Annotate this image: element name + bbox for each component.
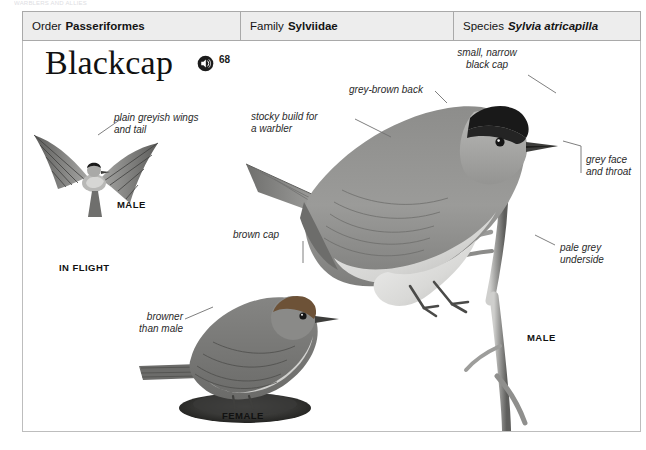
annotation-underside: pale grey underside [560,242,604,266]
audio-track-number: 68 [219,54,230,65]
leader-back [435,91,447,103]
taxonomy-header: Order Passeriformes Family Sylviidae Spe… [22,11,641,41]
family-value: Sylviidae [288,20,338,32]
species-label: Species [463,20,504,32]
page-title: Blackcap [45,46,173,80]
annotation-wings-tail: plain greyish wings and tail [114,112,199,136]
running-head: WARBLERS AND ALLIES [14,0,164,7]
annotation-face-throat: grey face and throat [586,154,631,178]
field-guide-page: WARBLERS AND ALLIES Order Passeriformes … [0,0,646,450]
annotation-brown-cap: brown cap [215,229,297,241]
speaker-icon[interactable] [197,55,214,72]
leader-underside [535,235,555,245]
annotation-browner: browner than male [101,311,183,335]
leader-lines [23,41,641,432]
caption-perched-male: MALE [527,332,556,343]
leader-stocky-build [355,119,391,137]
order-value: Passeriformes [65,20,144,32]
taxonomy-cell-family: Family Sylviidae [241,12,454,40]
species-value: Sylvia atricapilla [508,20,598,32]
taxonomy-cell-species: Species Sylvia atricapilla [454,12,640,40]
leader-browner [185,307,213,319]
annotation-black-cap: small, narrow black cap [443,47,531,71]
caption-female: FEMALE [222,410,264,421]
order-label: Order [32,20,61,32]
leader-black-cap [528,75,556,93]
annotation-back: grey-brown back [349,84,423,96]
illustration-plate: Blackcap 68 plain greyish wings and tail… [22,41,641,432]
taxonomy-cell-order: Order Passeriformes [23,12,241,40]
caption-in-flight: IN FLIGHT [59,262,110,273]
caption-flight-male: MALE [117,199,146,210]
annotation-stocky-build: stocky build for a warbler [251,111,318,135]
family-label: Family [250,20,284,32]
